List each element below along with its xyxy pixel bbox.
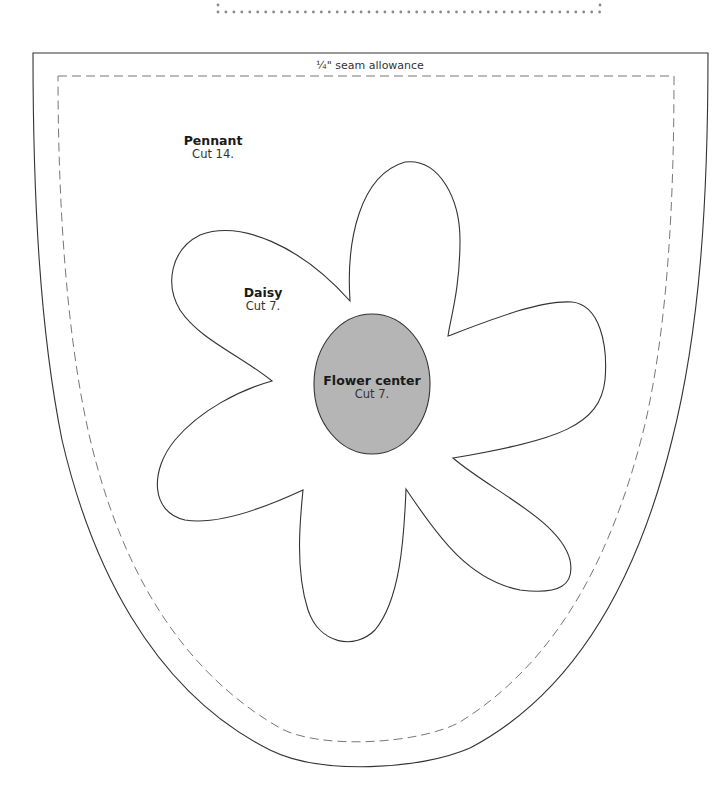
flower-center-name: Flower center: [323, 374, 420, 388]
flower-center-label: Flower center Cut 7.: [323, 374, 420, 402]
pattern-sheet: [0, 0, 720, 805]
daisy-cut-instruction: Cut 7.: [244, 300, 283, 313]
pennant-name: Pennant: [184, 134, 243, 148]
dotted-rule: [217, 4, 602, 14]
pennant-cut-instruction: Cut 14.: [184, 148, 243, 161]
daisy-name: Daisy: [244, 286, 283, 300]
flower-center-cut-instruction: Cut 7.: [323, 388, 420, 401]
pennant-label: Pennant Cut 14.: [184, 134, 243, 162]
daisy-label: Daisy Cut 7.: [244, 286, 283, 314]
seam-allowance-label: ¼" seam allowance: [316, 59, 424, 72]
